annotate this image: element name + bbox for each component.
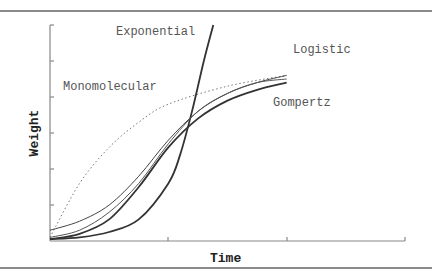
label-logistic: Logistic bbox=[293, 43, 351, 57]
series-logistic-line bbox=[50, 75, 287, 230]
series-monomolecular-line bbox=[50, 75, 287, 237]
y-axis bbox=[50, 25, 54, 241]
series-layer bbox=[50, 25, 287, 239]
series-richards-line bbox=[50, 79, 287, 237]
x-axis-label: Time bbox=[210, 251, 241, 266]
x-axis bbox=[50, 237, 405, 241]
label-gompertz: Gompertz bbox=[273, 96, 331, 110]
growth-curves-chart: Exponential Logistic Monomolecular Gompe… bbox=[0, 0, 432, 276]
label-monomolecular: Monomolecular bbox=[63, 80, 157, 94]
series-exponential-line bbox=[50, 25, 213, 239]
label-exponential: Exponential bbox=[116, 25, 195, 39]
series-gompertz-line bbox=[50, 83, 287, 240]
y-axis-label: Weight bbox=[27, 110, 42, 157]
